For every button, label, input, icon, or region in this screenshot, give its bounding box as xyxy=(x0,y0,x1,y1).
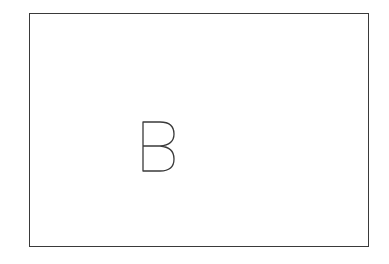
letter-b-outline xyxy=(0,0,389,264)
